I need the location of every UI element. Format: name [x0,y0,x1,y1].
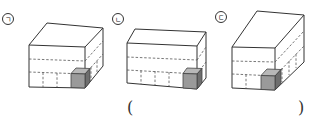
answer-blank[interactable] [140,100,298,118]
label-c: ㄷ [216,12,227,23]
figure-b: ㄴ [113,14,207,90]
cuboid-b-top-front-edge [127,32,206,46]
label-a: ㄱ [3,14,14,25]
figure-a: ㄱ [3,14,104,89]
label-b-text: ㄴ [115,16,121,24]
figure-c: ㄷ [216,11,305,90]
shaded-unit-cube-a [71,68,90,88]
shaded-unit-cube-c [261,69,281,90]
cuboid-a-outline [29,23,103,88]
answer-close-paren: ) [298,98,304,117]
answer-open-paren: ( [127,98,133,117]
label-c-text: ㄷ [218,14,224,22]
label-a-text: ㄱ [5,16,11,24]
shaded-unit-cube-b [183,68,202,89]
label-b: ㄴ [113,14,124,25]
